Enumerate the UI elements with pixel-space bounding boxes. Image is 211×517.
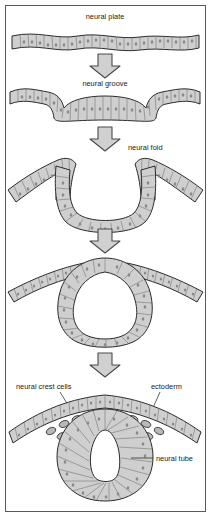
neurulation-diagram: neural plate	[0, 0, 211, 517]
stage-arrow-4	[90, 353, 120, 377]
neural-plate-label: neural plate	[86, 12, 125, 21]
closing-fold-stage	[8, 258, 203, 349]
neural-tube-stage: neural crest cells ectoderm	[9, 382, 201, 501]
neural-crest-cells-label: neural crest cells	[16, 382, 72, 391]
neural-plate-stage: neural plate	[12, 12, 199, 53]
neural-groove-epithelium	[10, 89, 200, 121]
stage-arrow-2	[90, 127, 120, 151]
ectoderm-label: ectoderm	[151, 382, 182, 391]
stage-arrow-1	[90, 54, 120, 78]
neural-groove-stage: neural groove	[10, 79, 200, 122]
neural-tube-label: neural tube	[156, 454, 193, 463]
stage-arrow-3	[90, 229, 120, 253]
neural-groove-label: neural groove	[82, 79, 127, 88]
neurulation-figure: neural plate	[0, 0, 211, 517]
neural-fold-stage: neural fold	[8, 143, 203, 236]
neural-fold-label: neural fold	[128, 143, 163, 152]
